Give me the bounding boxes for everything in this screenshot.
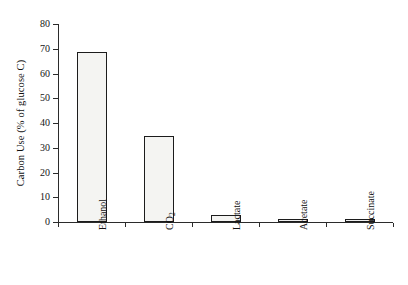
x-label-acetate: Acetate <box>298 199 310 230</box>
y-tick: 40 <box>53 123 58 124</box>
y-tick-label: 0 <box>45 215 50 228</box>
x-tick <box>393 223 394 227</box>
y-tick-label: 30 <box>40 141 50 154</box>
x-tick <box>125 223 126 227</box>
y-tick-label: 10 <box>40 190 50 203</box>
x-label-co2: CO2 <box>164 212 177 230</box>
y-tick-label: 70 <box>40 42 50 55</box>
chart-figure: Carbon Use (% of glucose C) 010203040506… <box>0 0 408 285</box>
y-tick: 10 <box>53 197 58 198</box>
y-tick: 50 <box>53 98 58 99</box>
y-tick-label: 80 <box>40 17 50 30</box>
x-label-succinate: Succinate <box>365 191 377 230</box>
bar-ethanol <box>77 52 107 222</box>
y-tick: 60 <box>53 74 58 75</box>
y-tick-label: 40 <box>40 116 50 129</box>
y-axis-title: Carbon Use (% of glucose C) <box>14 30 28 216</box>
y-axis-line <box>58 24 59 222</box>
x-label-ethanol: Ethanol <box>97 199 109 230</box>
y-tick: 70 <box>53 49 58 50</box>
x-label-lactate: Lactate <box>231 201 243 230</box>
y-tick-label: 20 <box>40 166 50 179</box>
x-tick <box>326 223 327 227</box>
x-tick <box>58 223 59 227</box>
y-tick: 30 <box>53 148 58 149</box>
y-tick-label: 60 <box>40 67 50 80</box>
y-tick: 20 <box>53 173 58 174</box>
x-tick <box>192 223 193 227</box>
bar-co2 <box>144 136 174 222</box>
plot-area: 01020304050607080 EthanolCO2LactateAceta… <box>58 24 393 222</box>
y-tick: 80 <box>53 24 58 25</box>
y-tick-label: 50 <box>40 91 50 104</box>
x-tick <box>259 223 260 227</box>
